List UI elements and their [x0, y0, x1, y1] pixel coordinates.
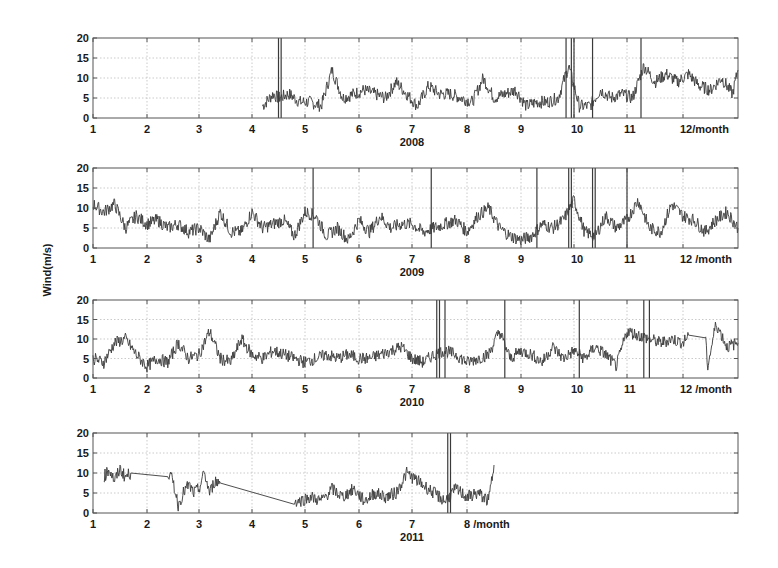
x-tick-label: 8: [464, 383, 470, 395]
y-tick-label: 20: [77, 162, 89, 174]
x-tick-label: 7: [409, 123, 415, 135]
x-tick-label: 4: [249, 123, 256, 135]
gridlines: [93, 433, 738, 513]
x-tick-label: 9: [518, 253, 524, 265]
x-tick-label: 7: [409, 518, 415, 530]
y-tick-label: 5: [83, 487, 89, 499]
x-tick-label: 10: [571, 253, 583, 265]
x-tick-label: 4: [249, 518, 256, 530]
x-tick-label: 1: [90, 253, 96, 265]
x-tick-label: 8 /month: [464, 518, 510, 530]
x-tick-label: 7: [409, 253, 415, 265]
panel-2008: 05101520123456789101112/month2008: [77, 32, 738, 148]
x-tick-label: 11: [624, 123, 636, 135]
x-tick-label: 1: [90, 123, 96, 135]
x-tick-label: 2: [144, 253, 150, 265]
x-tick-label: 7: [409, 383, 415, 395]
x-tick-label: 8: [464, 123, 470, 135]
wind-series-line: [263, 64, 738, 113]
x-tick-label: 5: [302, 383, 308, 395]
x-tick-label: 2: [144, 518, 150, 530]
y-tick-label: 10: [77, 202, 89, 214]
year-label: 2009: [400, 266, 424, 278]
y-tick-label: 15: [77, 52, 89, 64]
x-tick-label: 10: [571, 123, 583, 135]
panel-2009: 05101520123456789101112 /month2009: [77, 162, 738, 278]
x-tick-label: 10: [571, 383, 583, 395]
wind-series-line: [104, 465, 494, 511]
panel-2011: 0510152012345678 /month2011: [77, 427, 738, 543]
x-tick-label: 6: [356, 518, 362, 530]
x-tick-label: 6: [356, 253, 362, 265]
y-tick-label: 10: [77, 467, 89, 479]
y-tick-label: 0: [83, 242, 89, 254]
y-tick-label: 5: [83, 353, 89, 365]
y-tick-label: 10: [77, 333, 89, 345]
x-tick-label: 12/month: [680, 123, 729, 135]
y-tick-label: 20: [77, 427, 89, 439]
x-tick-label: 8: [464, 253, 470, 265]
y-tick-label: 5: [83, 222, 89, 234]
x-tick-label: 3: [196, 123, 202, 135]
y-tick-label: 15: [77, 447, 89, 459]
y-tick-label: 0: [83, 507, 89, 519]
x-tick-label: 11: [624, 253, 636, 265]
x-tick-label: 3: [196, 253, 202, 265]
x-tick-label: 11: [624, 383, 636, 395]
y-tick-label: 15: [77, 314, 89, 326]
x-tick-label: 6: [356, 383, 362, 395]
x-tick-label: 12 /month: [680, 383, 732, 395]
x-tick-label: 1: [90, 383, 96, 395]
y-tick-label: 10: [77, 72, 89, 84]
x-tick-label: 2: [144, 383, 150, 395]
x-tick-label: 6: [356, 123, 362, 135]
y-tick-label: 5: [83, 92, 89, 104]
wind-series-line: [93, 196, 738, 245]
y-tick-label: 15: [77, 182, 89, 194]
x-tick-label: 4: [249, 383, 256, 395]
x-tick-label: 4: [249, 253, 256, 265]
year-label: 2011: [400, 531, 424, 543]
year-label: 2008: [400, 136, 424, 148]
x-tick-label: 3: [196, 518, 202, 530]
x-tick-label: 5: [302, 518, 308, 530]
y-axis-label: Wind(m/s): [41, 243, 53, 296]
y-tick-label: 20: [77, 294, 89, 306]
y-tick-label: 0: [83, 372, 89, 384]
panel-2010: 05101520123456789101112 /month2010: [77, 294, 738, 408]
wind-series-line: [93, 322, 738, 372]
year-label: 2010: [400, 396, 424, 408]
x-tick-label: 12 /month: [680, 253, 732, 265]
wind-speed-figure: Wind(m/s) 05101520123456789101112/month2…: [0, 0, 778, 568]
y-tick-label: 20: [77, 32, 89, 44]
x-tick-label: 9: [518, 123, 524, 135]
x-tick-label: 5: [302, 253, 308, 265]
x-tick-label: 5: [302, 123, 308, 135]
y-tick-label: 0: [83, 112, 89, 124]
x-tick-label: 2: [144, 123, 150, 135]
x-tick-label: 1: [90, 518, 96, 530]
x-tick-label: 9: [518, 383, 524, 395]
x-tick-label: 3: [196, 383, 202, 395]
